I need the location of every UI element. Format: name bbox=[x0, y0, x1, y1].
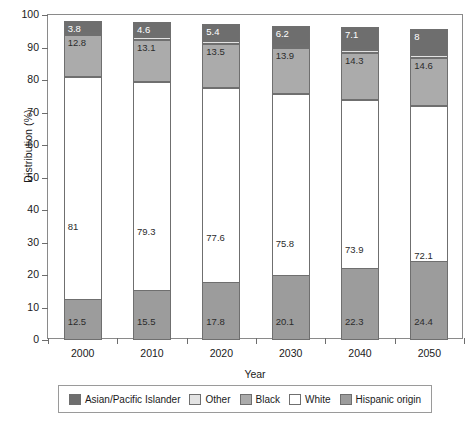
y-tick-label: 60 bbox=[27, 138, 39, 150]
y-tick-label: 100 bbox=[21, 8, 39, 20]
bar-column[interactable]: 75.813.90.86.220.1 bbox=[272, 15, 310, 338]
segment-value-label: 4.6 bbox=[137, 25, 150, 35]
legend-item[interactable]: Asian/Pacific Islander bbox=[69, 394, 181, 405]
legend-label: Other bbox=[205, 394, 230, 405]
segment-value-label: 0.8 bbox=[206, 43, 219, 44]
legend-label: Asian/Pacific Islander bbox=[85, 394, 181, 405]
y-tick-mark bbox=[42, 308, 48, 309]
segment-hispanic-origin[interactable]: 24.4 bbox=[410, 261, 448, 340]
segment-asian-pacific-islander[interactable]: 8 bbox=[410, 29, 448, 55]
segment-value-label: 79.3 bbox=[137, 227, 156, 237]
bar-column[interactable]: 77.613.50.85.417.8 bbox=[202, 15, 240, 338]
legend-swatch bbox=[240, 394, 252, 405]
segment-asian-pacific-islander[interactable]: 3.8 bbox=[64, 21, 102, 33]
y-tick-label: 10 bbox=[27, 301, 39, 313]
segment-black[interactable]: 14.3 bbox=[341, 53, 379, 99]
segment-value-label: 13.5 bbox=[206, 47, 225, 57]
x-tick-mark bbox=[256, 338, 257, 344]
segment-value-label: 8 bbox=[414, 32, 419, 42]
segment-value-label: 24.4 bbox=[414, 317, 433, 327]
y-tick-label: 50 bbox=[27, 171, 39, 183]
x-tick-mark bbox=[395, 338, 396, 344]
segment-black[interactable]: 14.6 bbox=[410, 58, 448, 105]
segment-asian-pacific-islander[interactable]: 5.4 bbox=[202, 24, 240, 42]
segment-value-label: 0.8 bbox=[276, 48, 289, 49]
y-tick-mark bbox=[42, 178, 48, 179]
segment-value-label: 3.8 bbox=[68, 24, 81, 33]
legend-item[interactable]: Black bbox=[240, 394, 280, 405]
segment-value-label: 17.8 bbox=[206, 317, 225, 327]
segment-value-label: 13.1 bbox=[137, 43, 156, 53]
legend-item[interactable]: Other bbox=[189, 394, 230, 405]
x-tick-label: 2010 bbox=[122, 347, 182, 359]
y-tick-label: 30 bbox=[27, 236, 39, 248]
y-tick-label: 20 bbox=[27, 268, 39, 280]
x-tick-label: 2030 bbox=[261, 347, 321, 359]
y-tick-label: 0 bbox=[33, 333, 39, 345]
legend-label: Black bbox=[256, 394, 280, 405]
segment-value-label: 72.1 bbox=[414, 251, 433, 261]
bar-column[interactable]: 73.914.30.97.122.3 bbox=[341, 15, 379, 338]
y-tick-mark bbox=[42, 113, 48, 114]
segment-black[interactable]: 12.8 bbox=[64, 35, 102, 77]
segment-other[interactable]: 0.8 bbox=[133, 37, 171, 40]
plot-area: 1009080706050403020100 20002010202020302… bbox=[47, 14, 463, 339]
bar-column[interactable]: 8112.80.73.812.5 bbox=[64, 15, 102, 338]
y-tick-label: 80 bbox=[27, 73, 39, 85]
y-tick-mark bbox=[42, 145, 48, 146]
y-tick-mark bbox=[42, 210, 48, 211]
y-tick-label: 90 bbox=[27, 41, 39, 53]
x-tick-mark bbox=[464, 338, 465, 344]
segment-value-label: 7.1 bbox=[345, 30, 358, 40]
segment-value-label: 15.5 bbox=[137, 317, 156, 327]
y-tick-mark bbox=[42, 243, 48, 244]
segment-asian-pacific-islander[interactable]: 6.2 bbox=[272, 26, 310, 46]
x-tick-label: 2020 bbox=[191, 347, 251, 359]
segment-other[interactable]: 0.9 bbox=[410, 55, 448, 58]
legend-swatch bbox=[340, 394, 352, 405]
segment-value-label: 14.3 bbox=[345, 56, 364, 66]
segment-other[interactable]: 0.8 bbox=[202, 41, 240, 44]
segment-value-label: 0.9 bbox=[414, 57, 427, 58]
x-tick-label: 2050 bbox=[399, 347, 459, 359]
x-tick-mark bbox=[48, 338, 49, 344]
segment-hispanic-origin[interactable]: 20.1 bbox=[272, 275, 310, 340]
bar-column[interactable]: 72.114.60.9824.4 bbox=[410, 15, 448, 338]
segment-hispanic-origin[interactable]: 15.5 bbox=[133, 290, 171, 340]
segment-other[interactable]: 0.8 bbox=[272, 46, 310, 49]
segment-value-label: 13.9 bbox=[276, 51, 295, 61]
bar-column[interactable]: 79.313.10.84.615.5 bbox=[133, 15, 171, 338]
x-tick-mark bbox=[187, 338, 188, 344]
segment-other[interactable]: 0.9 bbox=[341, 50, 379, 53]
chart-legend: Asian/Pacific IslanderOtherBlackWhiteHis… bbox=[58, 385, 432, 413]
segment-other[interactable]: 0.7 bbox=[64, 33, 102, 35]
legend-item[interactable]: White bbox=[289, 394, 331, 405]
segment-value-label: 12.8 bbox=[68, 38, 87, 48]
y-tick-mark bbox=[42, 275, 48, 276]
y-tick-label: 40 bbox=[27, 203, 39, 215]
segment-black[interactable]: 13.9 bbox=[272, 48, 310, 93]
segment-hispanic-origin[interactable]: 22.3 bbox=[341, 268, 379, 340]
legend-item[interactable]: Hispanic origin bbox=[340, 394, 422, 405]
x-tick-mark bbox=[117, 338, 118, 344]
y-tick-mark bbox=[42, 48, 48, 49]
segment-value-label: 77.6 bbox=[206, 233, 225, 243]
segment-hispanic-origin[interactable]: 12.5 bbox=[64, 299, 102, 340]
segment-hispanic-origin[interactable]: 17.8 bbox=[202, 282, 240, 340]
segment-value-label: 14.6 bbox=[414, 61, 433, 71]
segment-value-label: 20.1 bbox=[276, 317, 295, 327]
segment-asian-pacific-islander[interactable]: 4.6 bbox=[133, 22, 171, 37]
x-tick-mark bbox=[325, 338, 326, 344]
legend-swatch bbox=[69, 394, 81, 405]
segment-black[interactable]: 13.1 bbox=[133, 40, 171, 83]
segment-black[interactable]: 13.5 bbox=[202, 44, 240, 88]
segment-value-label: 75.8 bbox=[276, 239, 295, 249]
y-tick-mark bbox=[42, 80, 48, 81]
legend-swatch bbox=[289, 394, 301, 405]
x-tick-label: 2040 bbox=[330, 347, 390, 359]
segment-value-label: 12.5 bbox=[68, 317, 87, 327]
legend-swatch bbox=[189, 394, 201, 405]
segment-asian-pacific-islander[interactable]: 7.1 bbox=[341, 27, 379, 50]
segment-value-label: 81 bbox=[68, 222, 79, 232]
y-tick-mark bbox=[42, 15, 48, 16]
